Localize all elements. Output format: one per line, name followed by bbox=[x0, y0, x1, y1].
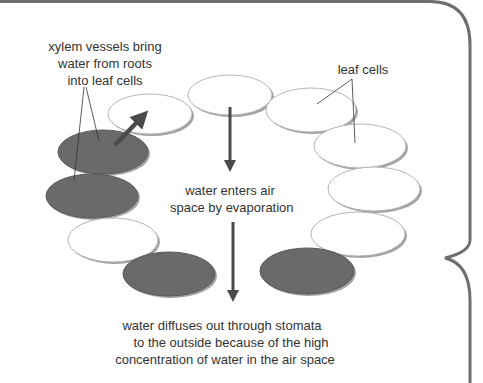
evaporation-label-line-1: water enters air bbox=[170, 182, 290, 199]
xylem-vessel-cell bbox=[46, 174, 140, 220]
leaf-cells-label: leaf cells bbox=[318, 61, 408, 78]
leaf-cell bbox=[314, 124, 408, 170]
leaf-cell bbox=[328, 167, 422, 213]
xylem-label-line-2: water from roots bbox=[25, 55, 185, 72]
xylem-vessel-cell bbox=[123, 252, 217, 298]
xylem-label: xylem vessels bring water from roots int… bbox=[25, 38, 185, 89]
xylem-label-line-1: xylem vessels bring bbox=[25, 38, 185, 55]
diffusion-label: water diffuses out through stomata to th… bbox=[95, 317, 355, 368]
xylem-vessel-cell bbox=[58, 130, 150, 176]
xylem-label-line-3: into leaf cells bbox=[25, 72, 185, 89]
diffusion-label-line-2: to the outside because of the high bbox=[95, 334, 355, 351]
xylem-vessel-cell bbox=[260, 248, 356, 296]
diffusion-label-line-3: concentration of water in the air space bbox=[95, 351, 355, 368]
diffusion-label-line-1: water diffuses out through stomata bbox=[95, 317, 355, 334]
evaporation-label-line-2: space by evaporation bbox=[170, 199, 290, 216]
leaf-cell bbox=[108, 94, 194, 136]
evaporation-label: water enters air space by evaporation bbox=[170, 182, 290, 216]
